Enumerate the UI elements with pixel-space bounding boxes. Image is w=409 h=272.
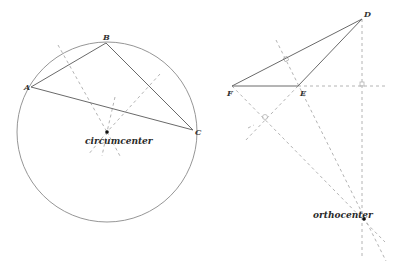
triangle-def bbox=[232, 19, 362, 86]
vertex-label-d: D bbox=[363, 9, 371, 19]
vertex-label-f: F bbox=[226, 88, 234, 98]
triangle-abc bbox=[31, 43, 193, 130]
vertex-label-c: C bbox=[195, 127, 202, 137]
bisector-ab bbox=[58, 45, 107, 132]
orthocenter-figure: D E F orthocenter bbox=[226, 9, 388, 261]
circumcenter-figure: A B C circumcenter bbox=[17, 32, 202, 222]
circumcenter-label: circumcenter bbox=[85, 136, 154, 146]
altitude-from-e bbox=[276, 40, 386, 261]
tick-mark bbox=[248, 125, 254, 128]
bisector-ac bbox=[107, 97, 115, 132]
extension-de bbox=[244, 86, 298, 142]
right-angle-mark-3 bbox=[263, 115, 268, 120]
vertex-label-b: B bbox=[102, 32, 110, 42]
vertex-label-e: E bbox=[299, 88, 307, 98]
bisector-bc bbox=[107, 74, 160, 132]
vertex-label-a: A bbox=[23, 82, 30, 92]
circumcenter-point bbox=[105, 130, 109, 134]
geometry-diagram: A B C circumcenter D E F orthocenter bbox=[0, 0, 409, 272]
orthocenter-label: orthocenter bbox=[313, 210, 374, 220]
